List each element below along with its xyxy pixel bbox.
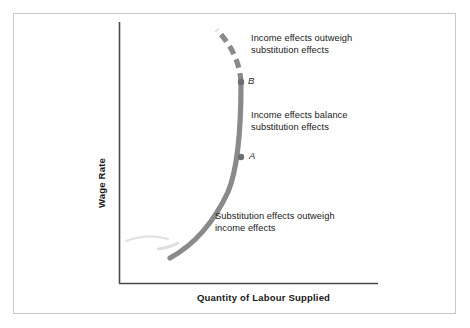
point-a-label: A — [249, 150, 255, 161]
figure-container: Wage Rate Quantity of Labour Supplied In… — [0, 0, 470, 328]
x-axis-label: Quantity of Labour Supplied — [197, 292, 330, 303]
point-b-marker — [238, 79, 244, 85]
point-b-label: B — [248, 75, 254, 86]
labour-supply-chart — [0, 0, 470, 328]
annotation-income-outweigh: Income effects outweigh substitution eff… — [251, 33, 352, 56]
annotation-income-balance: Income effects balance substitution effe… — [251, 110, 348, 133]
annotation-substitution-outweigh: Substitution effects outweigh income eff… — [215, 211, 335, 234]
point-a-marker — [238, 154, 244, 160]
scan-artifact-secondary — [158, 243, 178, 249]
scan-artifact — [126, 237, 168, 241]
supply-curve-dashed — [217, 30, 241, 82]
y-axis-label: Wage Rate — [96, 158, 107, 208]
